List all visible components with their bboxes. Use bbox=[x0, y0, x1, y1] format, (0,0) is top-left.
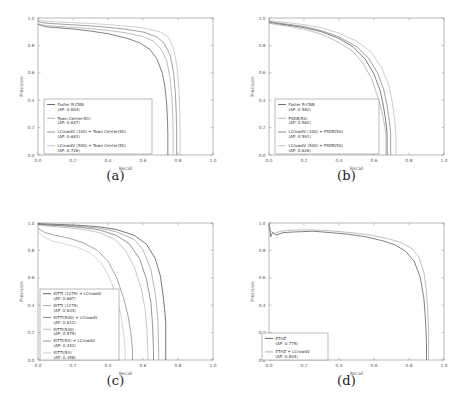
y-tick-label: 0.8 bbox=[28, 248, 35, 253]
y-axis-title: Precision bbox=[250, 76, 255, 97]
y-tick-label: 0.6 bbox=[28, 275, 35, 280]
x-tick-label: 0.4 bbox=[105, 363, 112, 368]
panel-a: 0.00.20.40.60.81.00.00.20.40.60.81.0Reca… bbox=[0, 0, 231, 205]
y-tick-label: 0.0 bbox=[28, 153, 35, 158]
x-tick-label: 0.2 bbox=[70, 158, 77, 163]
x-tick-label: 0.8 bbox=[406, 363, 413, 368]
y-tick-label: 0.2 bbox=[259, 125, 266, 130]
legend-series-ap: (AP: 0.591) bbox=[289, 134, 312, 139]
y-tick-label: 0.6 bbox=[259, 275, 266, 280]
y-tick-label: 0.4 bbox=[259, 98, 266, 103]
y-tick-label: 1.0 bbox=[28, 221, 35, 226]
legend-series-ap: (AP: 0.634) bbox=[54, 308, 77, 313]
x-tick-label: 0.8 bbox=[175, 158, 182, 163]
legend-series-ap: (AP: 0.562) bbox=[289, 120, 312, 125]
chart-c: 0.00.20.40.60.81.00.00.20.40.60.81.0Reca… bbox=[0, 205, 231, 380]
y-axis-title: Precision bbox=[19, 281, 24, 302]
panel-caption-b: (b) bbox=[231, 168, 462, 183]
panel-c: 0.00.20.40.60.81.00.00.20.40.60.81.0Reca… bbox=[0, 205, 231, 410]
y-tick-label: 0.0 bbox=[28, 358, 35, 363]
x-tick-label: 1.0 bbox=[210, 363, 217, 368]
x-tick-label: 1.0 bbox=[441, 158, 448, 163]
y-axis-title: Precision bbox=[19, 76, 24, 97]
chart-d: 0.00.20.40.60.81.00.00.20.40.60.81.0Reca… bbox=[231, 205, 462, 380]
x-tick-label: 1.0 bbox=[441, 363, 448, 368]
legend-series-ap: (AP: 0.442) bbox=[54, 343, 77, 348]
y-tick-label: 0.4 bbox=[259, 303, 266, 308]
x-tick-label: 0.2 bbox=[301, 363, 308, 368]
legend-series-ap: (AP: 0.726) bbox=[58, 148, 81, 153]
x-tick-label: 0.4 bbox=[336, 363, 343, 368]
legend-series-ap: (AP: 0.604) bbox=[58, 107, 81, 112]
x-tick-label: 0.4 bbox=[336, 158, 343, 163]
x-tick-label: 0.0 bbox=[266, 158, 273, 163]
y-tick-label: 1.0 bbox=[259, 221, 266, 226]
y-tick-label: 0.8 bbox=[259, 248, 266, 253]
x-tick-label: 0.6 bbox=[371, 363, 378, 368]
y-tick-label: 0.8 bbox=[28, 43, 35, 48]
legend-series-ap: (AP: 0.582) bbox=[289, 107, 312, 112]
x-tick-label: 0.6 bbox=[371, 158, 378, 163]
chart-b: 0.00.20.40.60.81.00.00.20.40.60.81.0Reca… bbox=[231, 0, 462, 175]
legend-series-ap: (AP: 0.626) bbox=[289, 148, 312, 153]
x-tick-label: 0.0 bbox=[35, 363, 42, 368]
figure-precision-recall-grid: 0.00.20.40.60.81.00.00.20.40.60.81.0Reca… bbox=[0, 0, 462, 410]
x-tick-label: 0.2 bbox=[301, 158, 308, 163]
chart-a: 0.00.20.40.60.81.00.00.20.40.60.81.0Reca… bbox=[0, 0, 231, 175]
legend-series-ap: (AP: 0.579) bbox=[54, 331, 77, 336]
plot-area-b: 0.00.20.40.60.81.00.00.20.40.60.81.0Reca… bbox=[231, 0, 462, 175]
legend-series-ap: (AP: 0.667) bbox=[54, 296, 77, 301]
y-tick-label: 1.0 bbox=[28, 16, 35, 21]
panel-caption-d: (d) bbox=[231, 373, 462, 388]
y-tick-label: 0.8 bbox=[259, 43, 266, 48]
x-tick-label: 1.0 bbox=[210, 158, 217, 163]
x-tick-label: 0.0 bbox=[266, 363, 273, 368]
x-tick-label: 0.8 bbox=[175, 363, 182, 368]
panel-caption-a: (a) bbox=[0, 168, 231, 183]
legend-series-ap: (AP: 0.683) bbox=[58, 134, 81, 139]
legend-series-ap: (AP: 0.612) bbox=[54, 320, 77, 325]
y-tick-label: 1.0 bbox=[259, 16, 266, 21]
y-tick-label: 0.6 bbox=[259, 70, 266, 75]
plot-area-a: 0.00.20.40.60.81.00.00.20.40.60.81.0Reca… bbox=[0, 0, 231, 175]
y-tick-label: 0.4 bbox=[28, 98, 35, 103]
y-tick-label: 0.6 bbox=[28, 70, 35, 75]
x-tick-label: 0.8 bbox=[406, 158, 413, 163]
legend-box bbox=[40, 289, 119, 360]
y-tick-label: 0.4 bbox=[28, 303, 35, 308]
legend-series-ap: (AP: 0.779) bbox=[276, 341, 299, 346]
y-tick-label: 0.2 bbox=[28, 125, 35, 130]
x-tick-label: 0.4 bbox=[105, 158, 112, 163]
panel-caption-c: (c) bbox=[0, 373, 231, 388]
x-tick-label: 0.6 bbox=[140, 158, 147, 163]
y-tick-label: 0.0 bbox=[259, 153, 266, 158]
legend-series-ap: (AP: 0.804) bbox=[276, 354, 299, 359]
x-tick-label: 0.6 bbox=[140, 363, 147, 368]
x-tick-label: 0.0 bbox=[35, 158, 42, 163]
legend-series-ap: (AP: 0.358) bbox=[54, 355, 77, 360]
plot-area-c: 0.00.20.40.60.81.00.00.20.40.60.81.0Reca… bbox=[0, 205, 231, 380]
plot-area-d: 0.00.20.40.60.81.00.00.20.40.60.81.0Reca… bbox=[231, 205, 462, 380]
panel-b: 0.00.20.40.60.81.00.00.20.40.60.81.0Reca… bbox=[231, 0, 462, 205]
x-tick-label: 0.2 bbox=[70, 363, 77, 368]
panel-d: 0.00.20.40.60.81.00.00.20.40.60.81.0Reca… bbox=[231, 205, 462, 410]
y-tick-label: 0.2 bbox=[28, 330, 35, 335]
legend-series-ap: (AP: 0.647) bbox=[58, 120, 81, 125]
y-axis-title: Precision bbox=[250, 281, 255, 302]
